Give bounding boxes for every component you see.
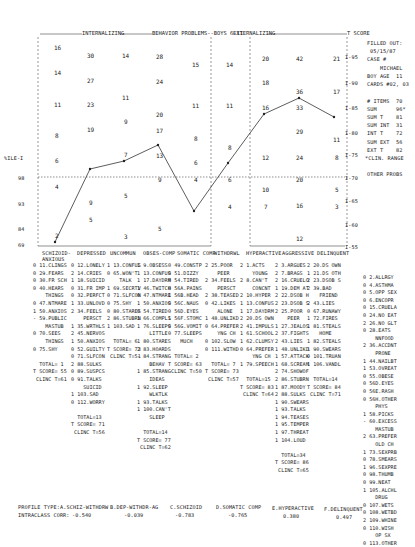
tick: 23: [87, 102, 94, 108]
tick: 5: [335, 187, 339, 193]
tick: 8: [55, 133, 59, 139]
int-t: INT T 72: [367, 130, 402, 136]
item-list-1: 0 12.LONELY 2 14.CRIES 1 18.SUICID 0 31.…: [71, 262, 105, 437]
tick: 5: [158, 226, 162, 232]
scale-label-delinquent: DELINQUENT: [317, 250, 349, 256]
tick: 3: [335, 204, 339, 210]
tick: 4: [194, 177, 198, 183]
tick: 28: [156, 54, 163, 60]
tick: 29: [296, 129, 303, 135]
item-list-5: 2 25.POOR PEER 2 34.FEELS PERSCT 2 38.TE…: [205, 262, 239, 384]
tscore-tick-95: I-95: [345, 54, 358, 60]
tick: 20: [296, 177, 303, 183]
tick: 27: [87, 78, 94, 84]
profile-c-name: C.SCHIZOID: [170, 504, 202, 510]
item-list-9: 0 2.ALLRGY 0 4.ASTHMA 0 5.OPP SEX 0 6.EN…: [363, 274, 397, 547]
item-list-3: 1 9.OBSESS 1 13.CONFUS 1 17.DAYDRM 1 46.…: [137, 262, 171, 452]
tick: 7: [264, 204, 268, 210]
tick: 9: [89, 200, 93, 206]
profile-b-name: B.DEP-WITHDR-AG: [110, 504, 158, 510]
tick: 17: [156, 128, 163, 134]
tscore-tick-85: I-85: [345, 105, 358, 111]
percentile-69: 69: [18, 242, 24, 248]
boy-age: BOY AGE 11: [367, 73, 402, 79]
scale-label-obses: OBSES-COMP: [143, 250, 175, 256]
tick: 10: [262, 187, 269, 193]
profile-f-name: F.DELINQUENT: [324, 506, 363, 512]
percentile-label: %ILE-I: [4, 155, 23, 161]
tick: 30: [87, 53, 94, 59]
tick: 9: [124, 119, 128, 125]
item-list-4: 0 49.CONSTP 0 51.DIZZY 0 54.TIRED 0 56A.…: [168, 262, 202, 376]
percentile-98: 98: [18, 175, 24, 181]
tick: 14: [226, 62, 233, 68]
tick: 6: [55, 158, 59, 164]
tick: 14: [54, 70, 61, 76]
tick: 24: [156, 79, 163, 85]
case-label: CASE #: [367, 56, 386, 62]
scale-label-aggressive: AGGRESSIVE: [282, 250, 314, 256]
tick: 16: [262, 105, 269, 111]
tick: 5: [124, 193, 128, 199]
profile-type-label: PROFILE TYPE:: [18, 504, 60, 510]
tick: 3: [124, 234, 128, 240]
tick: 2: [55, 233, 59, 239]
tick: 4: [228, 204, 232, 210]
ext-t: EXT T 82: [367, 147, 402, 153]
filled-out-date: 05/15/87: [370, 48, 396, 54]
tick: 9: [158, 177, 162, 183]
tick: 16: [296, 203, 303, 209]
tick: 15: [192, 62, 199, 68]
profile-d-name: D.SOMATIC COMP: [216, 504, 261, 510]
item-list-6: 2 1.ACTS YOUNG 2 8.CAN'T CONCNT 2 10.HYP…: [240, 262, 274, 399]
tick: 21: [333, 56, 340, 62]
tick: 20: [262, 56, 269, 62]
tick: 7: [124, 152, 128, 158]
tick: 33: [296, 105, 303, 111]
percentile-84: 84: [18, 226, 24, 232]
scale-label-depressed: DEPRESSED: [77, 250, 106, 256]
item-list-2: 1 13.CONFUS 0 65.WON'T TALK 1 69.SECRTV …: [107, 262, 141, 361]
tick: 16: [54, 45, 61, 51]
tick: 11: [54, 102, 61, 108]
externalizing-header: EXTERNALIZING: [233, 30, 275, 36]
tick: 6: [194, 160, 198, 166]
tick: 11: [333, 137, 340, 143]
tick: 5: [89, 217, 93, 223]
case-name: MICHAEL: [380, 65, 403, 71]
tick: 19: [87, 127, 94, 133]
profile-e-corr: 0.380: [283, 513, 299, 519]
tick: 24: [296, 155, 303, 161]
sum: SUM 96*: [367, 106, 406, 112]
tick: 11: [192, 103, 199, 109]
tick: 8: [335, 155, 339, 161]
tick: 36: [296, 89, 303, 95]
scale-label-somatic: SOMATIC COMP: [177, 250, 216, 256]
tick: 6: [228, 177, 232, 183]
profile-a-name: A.SCHIZ-WITHDRW: [60, 504, 108, 510]
tick: 13: [156, 153, 163, 159]
tscore-tick-65: I-65: [345, 198, 358, 204]
t-score-header: T SCORE: [347, 30, 370, 36]
scale-label-withdrwl: WITHDRWL: [214, 250, 240, 256]
profile-f-corr: 0.497: [336, 514, 352, 520]
tick: 12: [262, 155, 269, 161]
tick: 18: [262, 80, 269, 86]
tscore-tick-60: I-60: [345, 222, 358, 228]
tick: 20: [156, 112, 163, 118]
sum-t: SUM T 81: [367, 114, 402, 120]
item-list-8: 2 20.DS OWN 1 21.DS OTH 2 23.DSOB S 2 39…: [307, 262, 341, 399]
tscore-tick-70: I-70: [345, 175, 358, 181]
profile-e-name: E.HYPERACTIVE: [272, 505, 314, 511]
filled-out-label: FILLED OUT:: [367, 40, 402, 46]
other-probs-title: OTHER PROBS: [367, 171, 402, 177]
items-count: # ITEMS 70: [367, 98, 402, 104]
internalizing-header: INTERNALIZING: [82, 30, 124, 36]
tick: 11: [122, 95, 129, 101]
intraclass-label: INTRACLASS CORR:: [18, 512, 70, 518]
tick: 8: [228, 145, 232, 151]
profile-b-corr: -0.039: [124, 512, 143, 518]
scale-label-hyperactive: HYPERACTIVE: [246, 250, 281, 256]
tick: 8: [194, 136, 198, 142]
tick: 12: [296, 236, 303, 242]
